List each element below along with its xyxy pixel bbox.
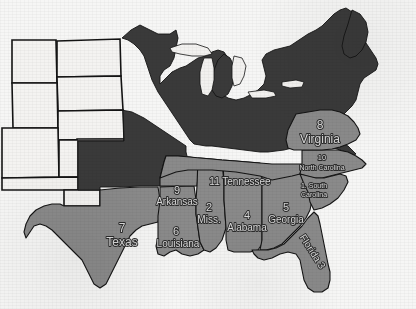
state-north-dakota	[57, 39, 121, 77]
lake-superior	[170, 44, 212, 56]
label-north-carolina-number: 10	[318, 153, 326, 162]
label-texas-number: 7	[119, 221, 126, 235]
label-mississippi-name: Miss.	[197, 214, 220, 225]
label-arkansas-name: Arkansas	[156, 196, 198, 207]
label-georgia-number: 5	[283, 201, 289, 213]
label-south-carolina-line1: 1. South	[301, 182, 327, 189]
lake-huron	[232, 56, 246, 86]
lake-erie	[248, 90, 276, 98]
label-virginia-number: 8	[317, 118, 324, 132]
lake-ontario	[282, 80, 304, 88]
label-alabama-number: 4	[244, 209, 250, 221]
state-wyoming	[12, 83, 58, 128]
state-montana	[12, 40, 57, 83]
label-louisiana-name: Louisiana	[157, 238, 200, 249]
state-nebraska	[58, 110, 124, 140]
label-alabama-name: Alabama	[227, 222, 267, 233]
lake-michigan	[200, 58, 214, 96]
state-white-notch	[64, 190, 100, 206]
label-texas-name: Texas	[106, 235, 137, 249]
state-colorado	[2, 128, 59, 178]
label-tennessee: 11 Tennessee	[209, 176, 271, 187]
state-oklahoma-panhandle	[2, 177, 78, 190]
label-louisiana-number: 6	[173, 225, 179, 237]
label-south-carolina-line2: Carolina	[301, 191, 327, 198]
label-mississippi-number: 2	[206, 201, 212, 213]
label-arkansas-number: 9	[174, 184, 180, 196]
map-container: 7 Texas 6 Louisiana 9 Arkansas 2 Miss. 4…	[0, 0, 416, 309]
us-map-svg: 7 Texas 6 Louisiana 9 Arkansas 2 Miss. 4…	[0, 0, 416, 309]
label-virginia-name: Virginia	[300, 132, 340, 146]
label-north-carolina-name: North Carolina	[299, 164, 344, 171]
state-south-dakota	[57, 76, 123, 111]
label-georgia-name: Georgia	[268, 214, 304, 225]
